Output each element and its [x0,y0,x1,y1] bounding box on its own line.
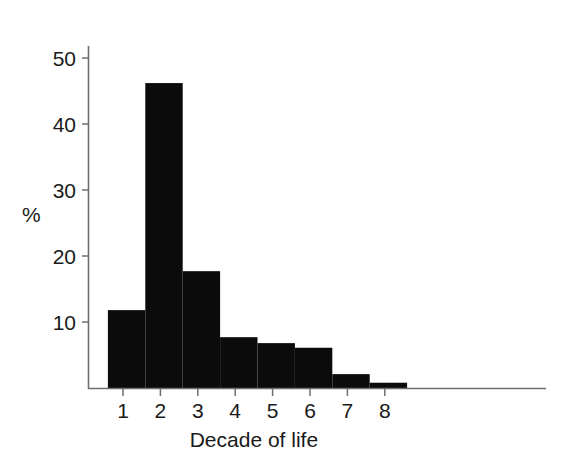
y-axis-title: % [22,203,41,226]
bar-5 [258,343,295,388]
bar-3 [183,271,220,388]
x-tick-label-4: 4 [229,399,241,422]
y-tick-label-10: 10 [53,311,76,334]
y-tick-label-20: 20 [53,245,76,268]
x-tick-label-6: 6 [304,399,316,422]
y-tick-label-40: 40 [53,113,76,136]
bar-7 [332,374,369,388]
x-tick-label-5: 5 [267,399,279,422]
y-tick-label-30: 30 [53,179,76,202]
histogram-plot: 1020304050 12345678 % Decade of life [0,0,570,463]
bar-4 [220,337,257,388]
x-tick-label-1: 1 [117,399,129,422]
bar-6 [295,348,332,388]
plot-background [0,0,570,463]
x-tick-label-7: 7 [342,399,354,422]
bar-8 [370,383,407,388]
y-tick-label-50: 50 [53,47,76,70]
bar-1 [108,310,145,388]
x-axis-title: Decade of life [190,428,318,451]
x-tick-label-3: 3 [192,399,204,422]
x-tick-label-8: 8 [379,399,391,422]
bar-2 [145,83,182,388]
x-tick-label-2: 2 [155,399,167,422]
chart-figure: 1020304050 12345678 % Decade of life [0,0,570,463]
